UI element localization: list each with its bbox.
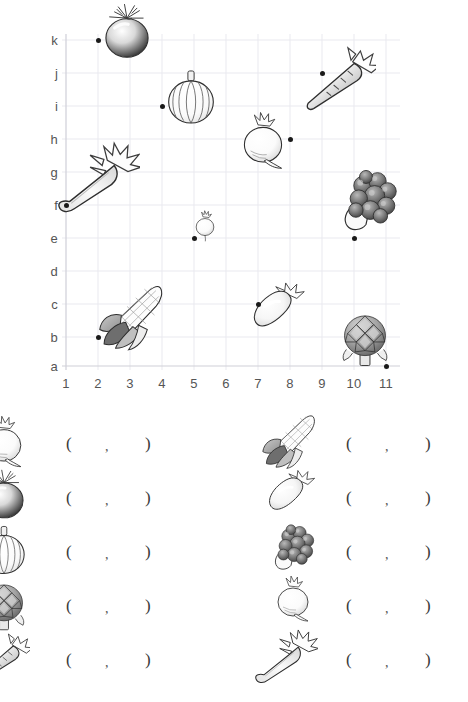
grid-point-tomato[interactable] bbox=[96, 38, 101, 43]
grid-celery-icon bbox=[59, 143, 141, 211]
y-axis-label-f: f bbox=[42, 199, 58, 212]
close-paren: ) bbox=[425, 543, 431, 560]
open-paren: ( bbox=[346, 597, 352, 614]
x-axis-label-9: 9 bbox=[313, 377, 331, 390]
coordinate-grid-plot: k j i h g f e d c b a 1 2 3 4 5 6 7 8 9 … bbox=[0, 0, 468, 400]
open-paren: ( bbox=[66, 597, 72, 614]
y-axis-label-c: c bbox=[42, 298, 58, 311]
answer-row-right-5[interactable]: ( , ) bbox=[280, 644, 450, 698]
grid-point-broccoli[interactable] bbox=[352, 236, 357, 241]
close-paren: ) bbox=[145, 543, 151, 560]
close-paren: ) bbox=[425, 489, 431, 506]
grid-point-corn[interactable] bbox=[96, 335, 101, 340]
grid-point-turnip[interactable] bbox=[288, 137, 293, 142]
x-axis-label-1: 1 bbox=[57, 377, 75, 390]
x-axis-label-3: 3 bbox=[121, 377, 139, 390]
x-axis-label-2: 2 bbox=[89, 377, 107, 390]
x-axis-label-6: 6 bbox=[217, 377, 235, 390]
answer-row-right-2[interactable]: ( , ) bbox=[280, 482, 450, 536]
x-axis-label-7: 7 bbox=[249, 377, 267, 390]
answer-row-left-2[interactable]: ( , ) bbox=[0, 482, 170, 536]
open-paren: ( bbox=[346, 489, 352, 506]
close-paren: ) bbox=[425, 435, 431, 452]
close-paren: ) bbox=[425, 597, 431, 614]
comma: , bbox=[105, 602, 109, 616]
comma: , bbox=[105, 440, 109, 454]
y-axis-label-j: j bbox=[42, 67, 58, 80]
grid-point-pumpkin[interactable] bbox=[160, 104, 165, 109]
open-paren: ( bbox=[66, 651, 72, 668]
open-paren: ( bbox=[346, 435, 352, 452]
grid-lines bbox=[0, 0, 468, 400]
answer-row-left-3[interactable]: ( , ) bbox=[0, 536, 170, 590]
comma: , bbox=[105, 548, 109, 562]
grid-turnip-icon bbox=[244, 112, 281, 168]
grid-tomato-icon bbox=[106, 4, 148, 57]
y-axis-label-e: e bbox=[42, 232, 58, 245]
comma: , bbox=[105, 494, 109, 508]
open-paren: ( bbox=[66, 489, 72, 506]
answer-row-left-4[interactable]: ( , ) bbox=[0, 590, 170, 644]
answer-row-left-1[interactable]: ( , ) bbox=[0, 428, 170, 482]
comma: , bbox=[385, 656, 389, 670]
x-axis-label-5: 5 bbox=[185, 377, 203, 390]
grid-corn-icon bbox=[100, 287, 162, 350]
answer-row-right-1[interactable]: ( , ) bbox=[280, 428, 450, 482]
open-paren: ( bbox=[346, 543, 352, 560]
answer-row-left-5[interactable]: ( , ) bbox=[0, 644, 170, 698]
open-paren: ( bbox=[66, 435, 72, 452]
open-paren: ( bbox=[66, 543, 72, 560]
answer-row-right-4[interactable]: ( , ) bbox=[280, 590, 450, 644]
grid-carrot-icon bbox=[307, 48, 380, 110]
y-axis-label-d: d bbox=[42, 265, 58, 278]
grid-broccoli-icon bbox=[345, 170, 396, 229]
close-paren: ) bbox=[145, 597, 151, 614]
y-axis-label-h: h bbox=[42, 133, 58, 146]
x-axis-label-11: 11 bbox=[377, 377, 395, 390]
grid-pumpkin-icon bbox=[169, 71, 214, 123]
y-axis-label-k: k bbox=[42, 34, 58, 47]
comma: , bbox=[385, 602, 389, 616]
x-axis-label-8: 8 bbox=[281, 377, 299, 390]
comma: , bbox=[385, 548, 389, 562]
grid-point-radish[interactable] bbox=[192, 236, 197, 241]
grid-radish-icon bbox=[196, 211, 214, 242]
x-axis-label-4: 4 bbox=[153, 377, 171, 390]
grid-point-eggplant[interactable] bbox=[256, 302, 261, 307]
answer-section: ( , ) ( , ) ( , ) ( , ) ( , ) ( , ) ( , … bbox=[0, 400, 468, 702]
close-paren: ) bbox=[145, 489, 151, 506]
open-paren: ( bbox=[346, 651, 352, 668]
close-paren: ) bbox=[425, 651, 431, 668]
comma: , bbox=[105, 656, 109, 670]
y-axis-label-b: b bbox=[42, 331, 58, 344]
grid-point-carrot[interactable] bbox=[320, 71, 325, 76]
comma: , bbox=[385, 440, 389, 454]
close-paren: ) bbox=[145, 435, 151, 452]
grid-artichoke-icon bbox=[343, 316, 387, 366]
grid-point-celery[interactable] bbox=[64, 203, 69, 208]
grid-point-artichoke[interactable] bbox=[384, 364, 389, 369]
close-paren: ) bbox=[145, 651, 151, 668]
answer-row-right-3[interactable]: ( , ) bbox=[280, 536, 450, 590]
x-axis-label-10: 10 bbox=[345, 377, 363, 390]
comma: , bbox=[385, 494, 389, 508]
y-axis-label-a: a bbox=[42, 360, 58, 373]
y-axis-label-i: i bbox=[42, 100, 58, 113]
y-axis-label-g: g bbox=[42, 166, 58, 179]
